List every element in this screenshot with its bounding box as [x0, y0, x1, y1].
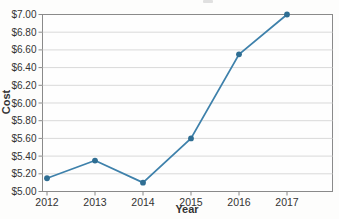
y-tick-label: $7.00 — [11, 9, 36, 20]
y-tick-label: $5.80 — [11, 115, 36, 126]
data-point-marker — [236, 51, 242, 57]
y-tick-label: $5.40 — [11, 151, 36, 162]
y-tick-label: $5.00 — [11, 186, 36, 197]
data-point-marker — [188, 136, 194, 142]
y-axis-title: Cost — [0, 52, 12, 152]
y-tick-label: $6.80 — [11, 27, 36, 38]
y-tick-label: $6.20 — [11, 80, 36, 91]
data-point-marker — [92, 158, 98, 164]
data-point-marker — [284, 12, 290, 18]
x-axis-title: Year — [42, 203, 332, 215]
y-tick-label: $6.60 — [11, 44, 36, 55]
y-tick-label: $6.00 — [11, 98, 36, 109]
y-tick-label: $6.40 — [11, 62, 36, 73]
cost-vs-year-chart: $5.00$5.20$5.40$5.60$5.80$6.00$6.20$6.40… — [0, 0, 339, 219]
y-tick-label: $5.20 — [11, 168, 36, 179]
data-point-marker — [140, 180, 146, 186]
y-tick-label: $5.60 — [11, 133, 36, 144]
data-point-marker — [44, 175, 50, 181]
line-chart-plot-area: $5.00$5.20$5.40$5.60$5.80$6.00$6.20$6.40… — [0, 0, 339, 219]
